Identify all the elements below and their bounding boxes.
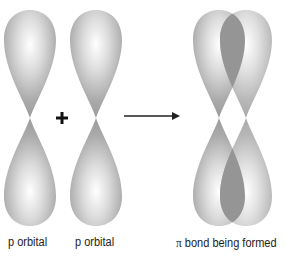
label-pi-bond: π bond being formed <box>176 235 277 251</box>
p-orbital-1-bottom-lobe <box>4 118 56 226</box>
p-orbital-2-top-lobe <box>70 10 122 118</box>
label-p-orbital-2: p orbital <box>75 235 114 249</box>
p-orbital-2-bottom-lobe <box>70 118 122 226</box>
p-orbital-1 <box>4 10 56 226</box>
pi-symbol: π <box>176 235 182 250</box>
reaction-arrow-icon <box>124 112 180 120</box>
label-pi-bond-text: bond being formed <box>185 236 277 250</box>
p-orbital-2 <box>70 10 122 226</box>
pi-bond-orbitals <box>193 10 272 226</box>
pi-bond-diagram <box>0 0 285 260</box>
plus-icon <box>56 112 68 124</box>
label-p-orbital-1: p orbital <box>8 235 47 249</box>
p-orbital-1-top-lobe <box>4 10 56 118</box>
